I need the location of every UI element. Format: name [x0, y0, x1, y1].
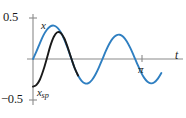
- y-axis-tick-label-lower: −0.5: [1, 93, 23, 106]
- y-axis-tick-label-upper: 0.5: [3, 11, 18, 24]
- curve-label-x: x: [41, 20, 46, 31]
- figure-container: 0.5 −0.5 x xsp π t: [0, 0, 186, 118]
- t-axis-label: t: [175, 50, 178, 62]
- curve-label-xsp: xsp: [37, 87, 49, 98]
- x-axis-tick-label-pi: π: [138, 64, 144, 75]
- curve-label-xsp-subscript: sp: [42, 91, 49, 100]
- plot-canvas: [0, 0, 186, 118]
